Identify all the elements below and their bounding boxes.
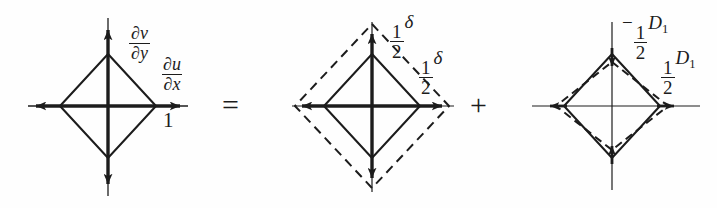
- label-half-delta-top: 12δ: [389, 11, 413, 62]
- deviatoric-strain-diagram: −12D1 12D1: [505, 0, 717, 208]
- minus-sign: −: [622, 12, 633, 33]
- deviatoric-canvas: [505, 0, 717, 208]
- dilatation-diagram: 12δ 12δ: [260, 0, 470, 208]
- label-half-delta-right: 12δ: [418, 47, 442, 98]
- label-half-d1: 12D1: [660, 47, 696, 98]
- total-deformation-canvas: [0, 0, 215, 208]
- total-deformation-diagram: ∂v∂y ∂u∂x 1: [0, 0, 215, 208]
- equals-sign: =: [222, 90, 239, 120]
- deformation-arrows: [36, 30, 180, 184]
- dilatation-canvas: [260, 0, 470, 208]
- label-one: 1: [163, 108, 174, 133]
- equation-figure: ∂v∂y ∂u∂x 1 =: [0, 0, 717, 208]
- plus-sign: +: [470, 90, 487, 120]
- label-dv-dy: ∂v∂y: [128, 14, 151, 62]
- label-du-dx: ∂u∂x: [160, 45, 184, 93]
